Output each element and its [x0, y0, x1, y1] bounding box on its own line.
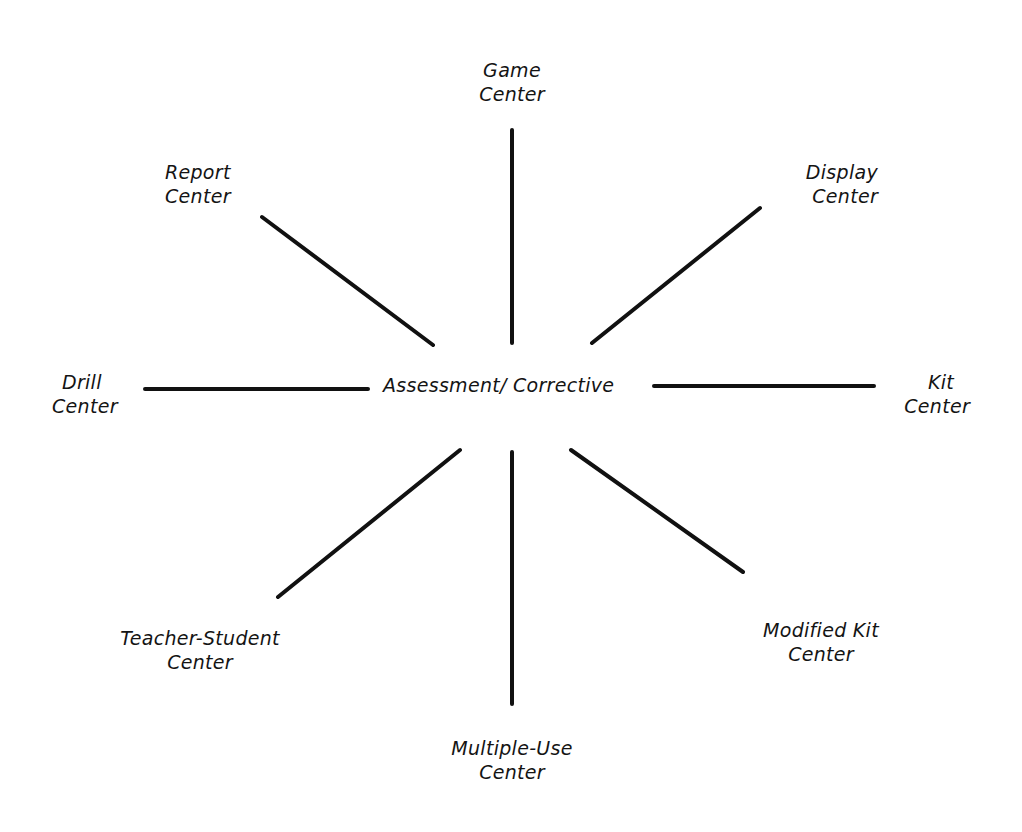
hub-label: Assessment/ Corrective [383, 373, 614, 397]
node-teacher-student: Teacher-Student Center [110, 626, 290, 674]
node-label-line2: Center [110, 650, 290, 674]
node-display: Display Center [778, 160, 878, 208]
node-label-line1: Multiple-Use [432, 736, 592, 760]
node-label-line2: Center [778, 184, 878, 208]
node-label-line2: Center [432, 760, 592, 784]
node-label-line2: Center [476, 82, 548, 106]
node-kit: Kit Center [880, 370, 970, 418]
node-drill: Drill Center [52, 370, 142, 418]
node-label-line1: Teacher-Student [110, 626, 290, 650]
spoke-lines [0, 0, 1022, 832]
node-label-line2: Center [52, 394, 142, 418]
node-label-line1: Modified Kit [746, 618, 896, 642]
hub-text: Assessment/ Corrective [383, 373, 614, 397]
node-multiple-use: Multiple-Use Center [432, 736, 592, 784]
node-label-line1: Game [476, 58, 548, 82]
node-label-line2: Center [746, 642, 896, 666]
spoke-teacher-student [278, 450, 460, 597]
spoke-display [592, 208, 760, 343]
node-report: Report Center [165, 160, 265, 208]
node-modified-kit: Modified Kit Center [746, 618, 896, 666]
node-label-line2: Center [880, 394, 970, 418]
node-label-line1: Kit [880, 370, 970, 394]
node-label-line2: Center [165, 184, 265, 208]
node-label-line1: Report [165, 160, 265, 184]
node-game: Game Center [476, 58, 548, 106]
node-label-line1: Display [778, 160, 878, 184]
spoke-report [262, 217, 433, 345]
node-label-line1: Drill [52, 370, 142, 394]
spoke-modified-kit [571, 450, 743, 572]
